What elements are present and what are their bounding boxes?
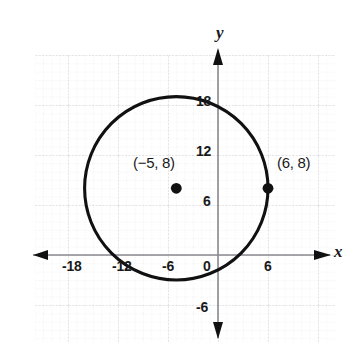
edge-point-marker [263, 183, 274, 194]
y-tick-label-minus-6: -6 [196, 300, 208, 314]
x-tick-label-minus-18: -18 [62, 259, 82, 273]
edge-point-label: (6, 8) [277, 155, 310, 170]
y-tick-label-12: 12 [196, 144, 211, 158]
x-tick-label-zero: 0 [203, 259, 211, 273]
x-tick-label-minus-6: -6 [162, 259, 174, 273]
y-axis-name: y [216, 24, 224, 41]
coordinate-plane-svg [0, 0, 358, 348]
center-point-marker [171, 183, 182, 194]
y-tick-label-6: 6 [203, 194, 211, 208]
circle-graph-figure: -18 -12 -6 0 6 18 12 6 -6 x y (−5, 8) (6… [0, 0, 358, 348]
x-tick-label-minus-12: -12 [112, 259, 132, 273]
x-axis-name: x [334, 243, 343, 260]
center-point-label: (−5, 8) [133, 155, 175, 170]
y-tick-label-18: 18 [196, 94, 211, 108]
x-tick-label-6: 6 [264, 259, 272, 273]
